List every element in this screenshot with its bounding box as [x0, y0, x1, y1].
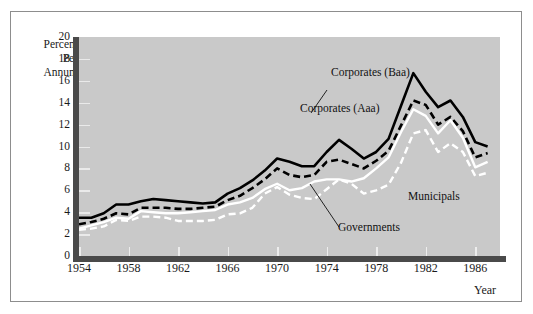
- annotation-corporates-aaa: Corporates (Aaa): [300, 102, 380, 114]
- y-tick-label: 8: [46, 162, 70, 174]
- series-line-corporates-aaa: [79, 101, 488, 225]
- y-tick-label: 18: [46, 53, 70, 65]
- x-axis-title: Year: [455, 283, 515, 298]
- annotation-governments: Governments: [338, 221, 400, 233]
- y-tick-label: 12: [46, 119, 70, 131]
- series-line-governments: [79, 109, 488, 228]
- y-tick-label: 10: [46, 141, 70, 153]
- x-tick-label: 1986: [445, 262, 505, 274]
- y-tick-label: 16: [46, 75, 70, 87]
- chart-figure: Percent Per Annum 02468101214161820 1954…: [0, 0, 533, 314]
- y-tick-label: 14: [46, 97, 70, 109]
- y-tick-label: 4: [46, 206, 70, 218]
- y-tick-label: 20: [46, 31, 70, 43]
- annotation-corporates-baa: Corporates (Baa): [331, 66, 410, 78]
- annotation-municipals: Municipals: [408, 190, 460, 202]
- series-line-municipals: [79, 130, 488, 230]
- y-tick-label: 6: [46, 184, 70, 196]
- series-lines: [79, 37, 500, 256]
- y-tick-label: 0: [46, 250, 70, 262]
- y-tick-label: 2: [46, 228, 70, 240]
